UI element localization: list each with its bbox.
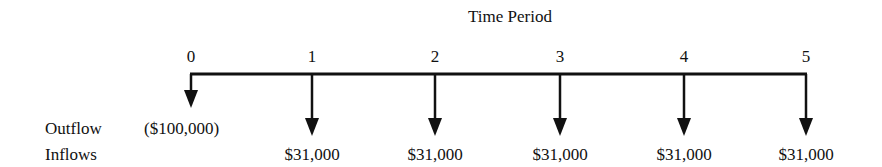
inflow-value-4: $31,000 — [656, 146, 711, 163]
arrow-icon-period-5 — [799, 74, 813, 136]
arrow-icon-period-2 — [428, 74, 442, 136]
inflow-value-5: $31,000 — [778, 146, 833, 163]
inflow-value-3: $31,000 — [532, 146, 587, 163]
arrow-icon-period-0 — [184, 74, 198, 108]
outflow-value-0: ($100,000) — [144, 120, 219, 137]
arrow-icon-period-1 — [305, 74, 319, 136]
row-label-outflow: Outflow — [45, 120, 102, 137]
inflow-value-1: $31,000 — [284, 146, 339, 163]
arrow-icon-period-3 — [553, 74, 567, 136]
timeline-arrows — [0, 0, 882, 167]
arrow-icon-period-4 — [677, 74, 691, 136]
row-label-inflows: Inflows — [45, 146, 97, 163]
inflow-value-2: $31,000 — [407, 146, 462, 163]
